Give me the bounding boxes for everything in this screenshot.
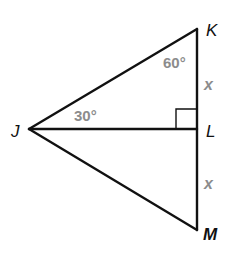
- vertex-label-k: K: [206, 21, 218, 40]
- angle-label-k: 60°: [163, 54, 186, 71]
- angle-label-j: 30°: [74, 107, 97, 124]
- segment-jm: [29, 129, 197, 230]
- right-angle-marker: [176, 109, 197, 129]
- vertex-label-l: L: [206, 122, 215, 141]
- triangle-diagram: K J L M 60° 30° x x: [0, 0, 243, 265]
- segment-label-lm: x: [203, 175, 214, 192]
- vertex-label-m: M: [203, 225, 218, 244]
- vertex-label-j: J: [10, 122, 20, 141]
- segment-label-kl: x: [203, 76, 214, 93]
- segment-jk: [29, 29, 197, 129]
